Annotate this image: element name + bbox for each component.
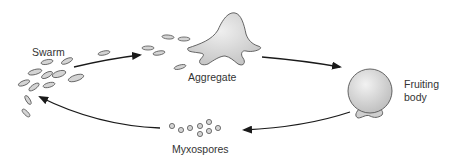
stage-label-swarm: Swarm bbox=[32, 46, 65, 58]
life-cycle-diagram: Swarm Aggregate Fruiting body Myxospores bbox=[0, 0, 452, 161]
stage-label-aggregate: Aggregate bbox=[188, 71, 236, 83]
aggregate-shape bbox=[188, 13, 261, 65]
arrow-fruiting-body-to-myxospores bbox=[244, 112, 350, 130]
myxospores-cells bbox=[169, 119, 220, 136]
stage-label-fruiting-body-line2: body bbox=[404, 91, 427, 103]
stage-label-fruiting-body-line1: Fruiting bbox=[404, 78, 439, 90]
arrow-swarm-to-aggregate bbox=[74, 55, 140, 67]
arrow-aggregate-to-fruiting-body bbox=[262, 57, 340, 67]
arrow-myxospores-to-swarm bbox=[40, 97, 160, 128]
stage-label-myxospores: Myxospores bbox=[172, 143, 229, 155]
fruiting-body-shape bbox=[348, 69, 392, 118]
